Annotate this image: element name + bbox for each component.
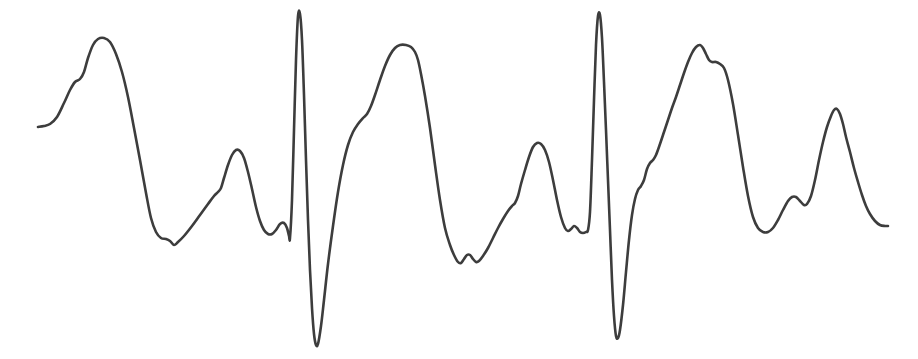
waveform-figure — [0, 0, 918, 359]
chart-background — [0, 0, 918, 359]
waveform-chart-canvas — [0, 0, 918, 359]
